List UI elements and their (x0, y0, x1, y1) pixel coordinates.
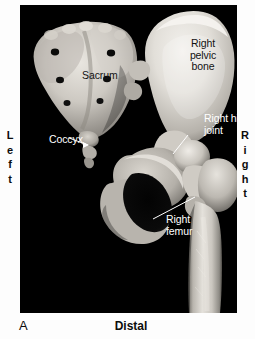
orientation-left-letter: e (3, 143, 17, 158)
label-coccyx: Coccyx (49, 134, 83, 146)
orientation-label-right: R i g h t (238, 128, 252, 201)
sacral-foramen (97, 98, 104, 104)
sacral-foramen (107, 50, 115, 57)
orientation-right-letter: i (238, 143, 252, 158)
orientation-left-letter: L (3, 128, 17, 143)
label-right-hip-joint: Right hip joint (204, 113, 237, 136)
label-right-pelvic-bone: Right pelvic bone (172, 38, 234, 73)
sacral-foramen (64, 100, 71, 106)
orientation-right-letter: h (238, 172, 252, 187)
orientation-right-letter: R (238, 128, 252, 143)
sacral-foramen (56, 77, 64, 83)
orientation-right-letter: t (238, 186, 252, 201)
orientation-label-distal: Distal (85, 319, 177, 333)
label-right-femur: Right femur (166, 214, 214, 237)
orientation-right-letter: g (238, 157, 252, 172)
orientation-left-letter: f (3, 157, 17, 172)
anatomy-figure: Right pelvic bone Sacrum Coccyx Right hi… (0, 0, 255, 339)
sacral-foramen (51, 49, 59, 56)
label-sacrum: Sacrum (82, 70, 118, 82)
panel-letter: A (19, 318, 28, 333)
orientation-left-letter: t (3, 172, 17, 187)
orientation-label-left: L e f t (3, 128, 17, 186)
radiograph-plate: Right pelvic bone Sacrum Coccyx Right hi… (20, 5, 237, 313)
